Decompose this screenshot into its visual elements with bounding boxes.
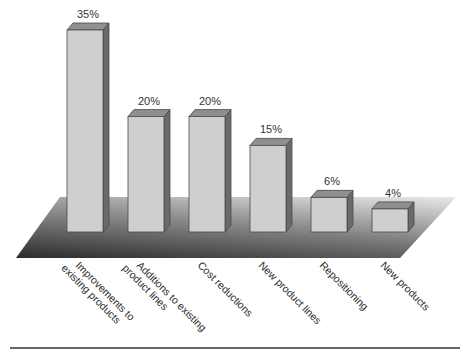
- bar: [311, 190, 353, 232]
- category-label: Cost reductions: [196, 259, 256, 319]
- bar-side-face: [164, 110, 170, 232]
- category-label: Repositioning: [318, 259, 372, 313]
- value-label: 4%: [385, 187, 401, 199]
- value-label: 15%: [260, 123, 282, 135]
- bar-top-face: [250, 138, 292, 145]
- bar-front-face: [372, 209, 408, 232]
- bar: [372, 202, 414, 232]
- bar-front-face: [189, 117, 225, 232]
- bar-side-face: [103, 23, 109, 232]
- category-label: New products: [379, 259, 433, 313]
- category-label: New product lines: [257, 259, 325, 327]
- value-label: 20%: [199, 95, 221, 107]
- value-label: 6%: [324, 175, 340, 187]
- bar-front-face: [128, 117, 164, 232]
- bar: [67, 23, 109, 232]
- value-labels: 35%20%20%15%6%4%: [77, 8, 401, 199]
- bar: [128, 110, 170, 232]
- value-label: 35%: [77, 8, 99, 20]
- bar-top-face: [372, 202, 414, 209]
- bar-front-face: [67, 30, 103, 232]
- bar-front-face: [311, 197, 347, 232]
- bar-top-face: [311, 190, 353, 197]
- bar-top-face: [128, 110, 170, 117]
- bar-side-face: [286, 138, 292, 232]
- bar-top-face: [189, 110, 231, 117]
- bar-front-face: [250, 145, 286, 232]
- bar: [189, 110, 231, 232]
- value-label: 20%: [138, 95, 160, 107]
- bar-top-face: [67, 23, 109, 30]
- bar: [250, 138, 292, 232]
- bar-chart: 35%20%20%15%6%4% Improvements toexisting…: [0, 0, 468, 353]
- category-labels: Improvements toexisting productsAddition…: [59, 253, 432, 342]
- bar-side-face: [225, 110, 231, 232]
